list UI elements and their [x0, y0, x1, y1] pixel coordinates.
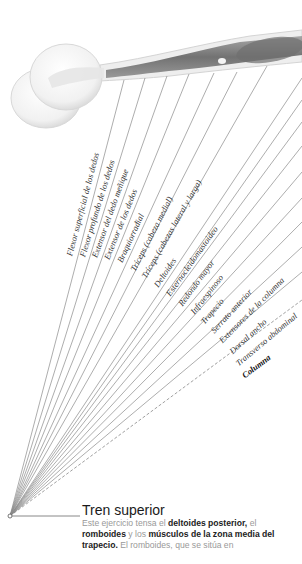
caption-text: El romboides, que se sitúa en [118, 540, 234, 550]
caption-text: y los [126, 529, 148, 539]
leader-line [10, 80, 124, 516]
caption: Tren superior Este ejercicio tensa el de… [82, 503, 297, 551]
caption-title: Tren superior [82, 503, 297, 518]
origin-marker [8, 514, 80, 518]
caption-text: el [247, 518, 256, 528]
arm-illustration [100, 30, 302, 81]
leader-line [10, 66, 267, 516]
leader-line [10, 78, 145, 516]
leader-line [10, 247, 302, 516]
caption-emphasis: romboides [82, 529, 126, 539]
caption-emphasis: deltoides posterior, [168, 518, 247, 528]
dumbbell-illustration [11, 44, 104, 128]
caption-body: Este ejercicio tensa el deltoides poster… [82, 518, 297, 551]
leader-lines [10, 66, 302, 516]
caption-text: Este ejercicio tensa el [82, 518, 168, 528]
